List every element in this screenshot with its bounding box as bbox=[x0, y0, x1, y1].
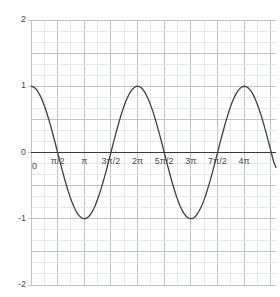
y-axis-tick-label: 1 bbox=[21, 81, 26, 90]
plot-canvas bbox=[0, 0, 280, 297]
x-axis-tick-label: 4π bbox=[224, 157, 264, 166]
y-axis-tick-label: 0 bbox=[21, 148, 26, 157]
cosine-plot-figure: 210-1-2π/2π3π/22π5π/23π7π/24π0 bbox=[0, 0, 280, 297]
origin-label: 0 bbox=[32, 162, 37, 171]
y-axis-tick-label: 2 bbox=[21, 15, 26, 24]
y-axis-tick-label: -2 bbox=[18, 280, 26, 289]
y-axis-tick-label: -1 bbox=[18, 214, 26, 223]
